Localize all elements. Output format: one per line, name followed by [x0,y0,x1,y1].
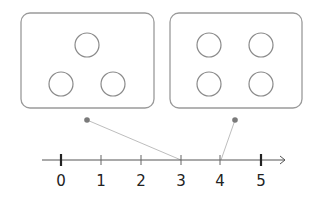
tick-label-2: 2 [136,172,146,190]
left-box-circles [49,33,125,96]
counter-circle [49,72,73,96]
counter-circle [75,33,99,57]
connector-right [221,120,235,160]
counter-circle [249,72,273,96]
right-box-circles [197,33,273,96]
tick-labels: 012345 [56,172,266,190]
counter-circle [197,72,221,96]
counter-circle [101,72,125,96]
tick-label-4: 4 [215,172,225,190]
tick-label-3: 3 [176,172,186,190]
connector-dot-right [232,117,238,123]
number-line-diagram: 012345 [0,0,316,215]
tick-label-5: 5 [256,172,266,190]
connector-dot-left [84,117,90,123]
counter-circle [249,33,273,57]
tick-label-0: 0 [56,172,66,190]
tick-label-1: 1 [96,172,106,190]
counter-circle [197,33,221,57]
right-box [170,13,302,108]
connector-left [87,120,181,160]
left-box [21,13,154,108]
